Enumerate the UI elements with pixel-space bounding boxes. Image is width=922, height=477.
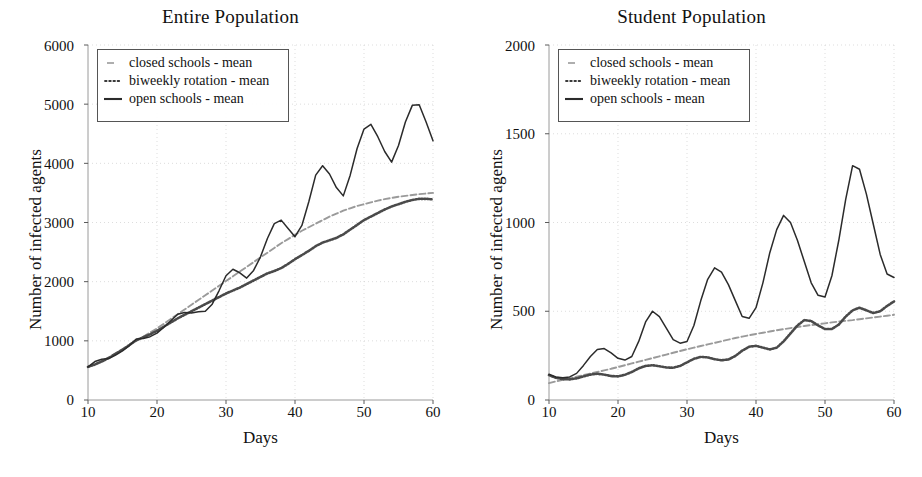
legend-row-closed-schools-student: closed schools - mean — [564, 54, 742, 72]
panel-student-population: Student Population Number of infected ag… — [461, 0, 922, 477]
dotted-line-key-icon — [564, 76, 586, 86]
legend-row-closed-schools: closed schools - mean — [103, 54, 281, 72]
series-line-biweekly-rotation-mean — [549, 301, 894, 379]
legend-row-open-schools-student: open schools - mean — [564, 90, 742, 108]
legend-label-open-schools-student: open schools - mean — [590, 91, 705, 107]
legend-label-closed-schools: closed schools - mean — [129, 55, 252, 71]
solid-line-key-icon — [103, 94, 125, 104]
series-line-open-schools-mean — [88, 105, 433, 367]
legend-label-closed-schools-student: closed schools - mean — [590, 55, 713, 71]
legend-entire-population: closed schools - mean biweekly rotation … — [97, 49, 289, 122]
legend-label-biweekly-rotation-student: biweekly rotation - mean — [590, 73, 730, 89]
legend-label-open-schools: open schools - mean — [129, 91, 244, 107]
panel-entire-population: Entire Population Number of infected age… — [0, 0, 461, 477]
legend-student-population: closed schools - mean biweekly rotation … — [558, 49, 750, 122]
figure-two-panel-line-charts: Entire Population Number of infected age… — [0, 0, 922, 477]
dotted-line-key-icon — [103, 76, 125, 86]
legend-row-biweekly-rotation: biweekly rotation - mean — [103, 72, 281, 90]
legend-row-biweekly-rotation-student: biweekly rotation - mean — [564, 72, 742, 90]
series-line-open-schools-mean — [549, 166, 894, 378]
solid-line-key-icon — [564, 94, 586, 104]
series-line-biweekly-rotation-mean — [88, 199, 433, 367]
legend-row-open-schools: open schools - mean — [103, 90, 281, 108]
dashed-line-key-icon — [564, 58, 586, 68]
legend-label-biweekly-rotation: biweekly rotation - mean — [129, 73, 269, 89]
dashed-line-key-icon — [103, 58, 125, 68]
